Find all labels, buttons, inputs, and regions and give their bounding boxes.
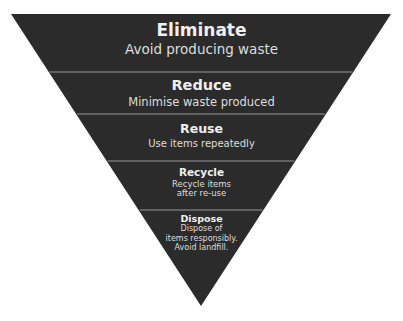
tier-description: Avoid producing waste <box>0 42 403 58</box>
tier-description-line: Dispose of <box>0 224 403 233</box>
tier-description-line: items responsibly. <box>0 234 403 243</box>
tier-description-line: Use items repeatedly <box>0 138 403 150</box>
tier-title: Dispose <box>0 214 403 224</box>
tier-title: Reduce <box>0 78 403 94</box>
tier-dispose: Dispose Dispose of items responsibly. Av… <box>0 214 403 252</box>
tier-title: Recycle <box>0 167 403 179</box>
tier-reduce: Reduce Minimise waste produced <box>0 78 403 109</box>
tier-description-line: Minimise waste produced <box>0 96 403 109</box>
tier-reuse: Reuse Use items repeatedly <box>0 122 403 149</box>
tier-description: Dispose of items responsibly. Avoid land… <box>0 224 403 252</box>
tier-description-line: Avoid producing waste <box>0 42 403 58</box>
tier-description: Minimise waste produced <box>0 96 403 109</box>
tier-title: Eliminate <box>0 21 403 40</box>
tier-description-line: Avoid landfill. <box>0 243 403 252</box>
tier-description: Recycle items after re-use <box>0 180 403 200</box>
tier-title: Reuse <box>0 122 403 136</box>
inverted-triangle <box>11 14 391 306</box>
tier-eliminate: Eliminate Avoid producing waste <box>0 21 403 57</box>
tier-description: Use items repeatedly <box>0 138 403 150</box>
tier-description-line: after re-use <box>0 189 403 199</box>
tier-recycle: Recycle Recycle items after re-use <box>0 167 403 199</box>
